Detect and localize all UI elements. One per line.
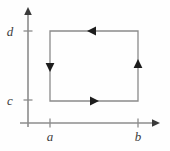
vertical-axis-arrowhead (24, 7, 32, 15)
tick-marks-group (24, 31, 139, 128)
label-c: c (7, 93, 13, 108)
horizontal-axis-arrowhead (152, 119, 160, 127)
left-edge-arrow-icon (46, 63, 55, 72)
figure-canvas: d c a b (0, 0, 170, 151)
rectangle-contour (50, 31, 138, 101)
direction-arrows-group (46, 27, 143, 106)
label-b: b (135, 129, 142, 144)
label-a: a (47, 129, 54, 144)
axis-labels-group: d c a b (7, 24, 142, 144)
contour-figure: d c a b (0, 0, 170, 151)
top-edge-arrow-icon (87, 27, 96, 36)
label-d: d (7, 24, 14, 39)
bottom-edge-arrow-icon (90, 97, 99, 106)
right-edge-arrow-icon (134, 59, 143, 68)
contour-outline (50, 31, 138, 101)
